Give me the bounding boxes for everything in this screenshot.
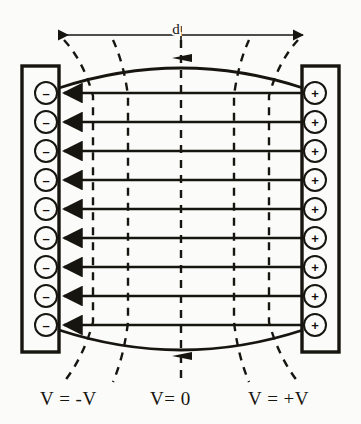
positive-charge-symbol: + [311, 289, 319, 304]
positive-charge-symbol: + [311, 202, 319, 217]
positive-charge-symbol: + [311, 173, 319, 188]
negative-charge: – [35, 82, 57, 104]
positive-charge-symbol: + [311, 231, 319, 246]
negative-charges-group: – – – – – – – – – [35, 82, 57, 336]
negative-charge: – [35, 314, 57, 336]
negative-charge-symbol: – [42, 318, 49, 333]
positive-charge-symbol: + [311, 115, 319, 130]
positive-charge: + [304, 111, 326, 133]
positive-charge: + [304, 256, 326, 278]
negative-charge-symbol: – [42, 173, 49, 188]
positive-charges-group: + + + + + + + + + [304, 82, 326, 336]
negative-charge-symbol: – [42, 202, 49, 217]
positive-charge: + [304, 314, 326, 336]
positive-charge-symbol: + [311, 86, 319, 101]
negative-charge-symbol: – [42, 289, 49, 304]
potential-label-negative: V = -V [40, 388, 97, 409]
potential-labels-group: V = -V V= 0 V = +V [40, 388, 309, 409]
equipotential-line [64, 40, 93, 382]
negative-charge: – [35, 285, 57, 307]
potential-label-zero: V= 0 [150, 388, 191, 409]
negative-charge: – [35, 256, 57, 278]
negative-charge-symbol: – [42, 231, 49, 246]
negative-charge-symbol: – [42, 144, 49, 159]
positive-charge: + [304, 140, 326, 162]
equipotential-line [269, 40, 298, 382]
positive-charge-symbol: + [311, 260, 319, 275]
diagram-canvas: d [0, 0, 361, 424]
positive-charge: + [304, 82, 326, 104]
negative-charge: – [35, 169, 57, 191]
potential-label-positive: V = +V [248, 388, 309, 409]
negative-charge: – [35, 198, 57, 220]
positive-charge-symbol: + [311, 144, 319, 159]
field-lines-group [64, 93, 303, 325]
negative-charge-symbol: – [42, 86, 49, 101]
positive-charge: + [304, 169, 326, 191]
negative-charge: – [35, 227, 57, 249]
equipotential-lines-group [64, 40, 298, 382]
positive-charge-symbol: + [311, 318, 319, 333]
dimension-label: d [172, 21, 180, 37]
capacitor-field-diagram: d [0, 0, 361, 424]
equipotential-line [234, 40, 249, 382]
negative-charge-symbol: – [42, 260, 49, 275]
negative-charge: – [35, 140, 57, 162]
negative-charge: – [35, 111, 57, 133]
positive-charge: + [304, 198, 326, 220]
positive-charge: + [304, 227, 326, 249]
negative-charge-symbol: – [42, 115, 49, 130]
equipotential-line [113, 40, 128, 382]
positive-charge: + [304, 285, 326, 307]
